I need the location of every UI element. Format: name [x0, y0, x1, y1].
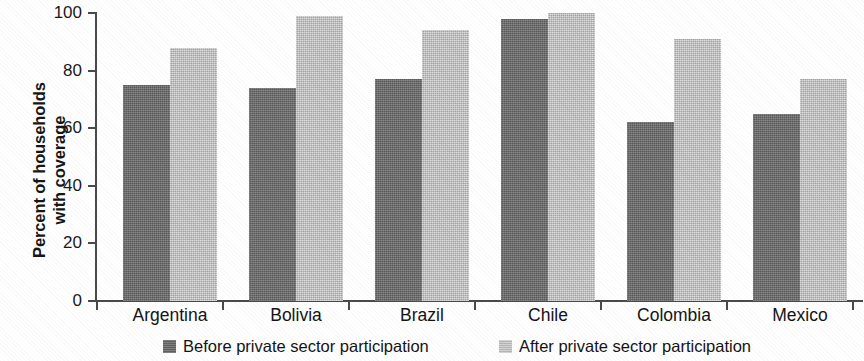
y-tick-label-0: 0: [36, 292, 82, 309]
bar-brazil-before: [375, 79, 422, 301]
bar-mexico-after: [800, 79, 847, 301]
bar-colombia-after: [674, 39, 721, 301]
y-tick-100: [88, 12, 97, 14]
bar-bolivia-after: [296, 16, 343, 301]
chart-legend: Before private sector participation Afte…: [0, 337, 864, 361]
y-tick-label-40: 40: [36, 177, 82, 194]
category-label-bolivia: Bolivia: [226, 306, 366, 324]
category-label-argentina: Argentina: [100, 306, 240, 324]
y-axis-line: [95, 12, 97, 302]
y-tick-label-100: 100: [36, 4, 82, 21]
y-tick-40: [88, 185, 97, 187]
bar-chart-figure: Percent of households with coverage 0204…: [0, 0, 864, 361]
y-tick-60: [88, 127, 97, 129]
y-tick-20: [88, 242, 97, 244]
bar-brazil-after: [422, 30, 469, 301]
y-tick-80: [88, 70, 97, 72]
legend-swatch-after-icon: [499, 340, 512, 353]
category-label-brazil: Brazil: [352, 306, 492, 324]
legend-label-before: Before private sector participation: [183, 337, 429, 356]
bar-colombia-before: [627, 122, 674, 301]
bar-argentina-before: [123, 85, 170, 301]
bar-argentina-after: [170, 48, 217, 301]
bar-bolivia-before: [249, 88, 296, 301]
y-tick-label-60: 60: [36, 119, 82, 136]
legend-item-before: Before private sector participation: [163, 337, 429, 356]
legend-item-after: After private sector participation: [499, 337, 751, 356]
legend-label-after: After private sector participation: [519, 337, 751, 356]
y-tick-label-80: 80: [36, 62, 82, 79]
bar-chile-after: [548, 13, 595, 301]
legend-swatch-before-icon: [163, 340, 176, 353]
bar-chile-before: [501, 19, 548, 301]
x-tick-0: [96, 300, 98, 310]
bar-mexico-before: [753, 114, 800, 301]
category-label-chile: Chile: [478, 306, 618, 324]
category-label-colombia: Colombia: [604, 306, 744, 324]
y-tick-label-20: 20: [36, 234, 82, 251]
category-label-mexico: Mexico: [730, 306, 864, 324]
